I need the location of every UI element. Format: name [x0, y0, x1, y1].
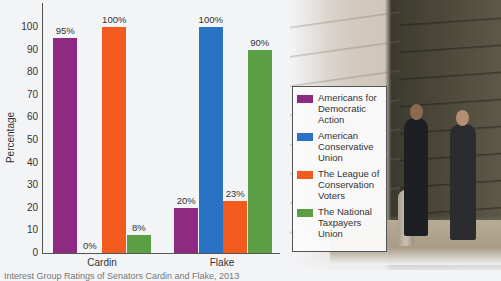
legend-swatch [297, 171, 313, 179]
bar-value-label: 95% [48, 25, 82, 36]
y-tick-label: 70 [16, 90, 38, 100]
legend-swatch [297, 95, 313, 103]
category-label-flake: Flake [192, 257, 252, 268]
y-tick-label: 100 [16, 22, 38, 32]
legend: Americans for Democratic Action American… [292, 86, 387, 252]
y-tick-label: 20 [16, 203, 38, 213]
bar-cardin-0 [53, 38, 77, 253]
y-axis-line [42, 3, 43, 254]
y-tick-label: 40 [16, 158, 38, 168]
bar-value-label: 90% [243, 37, 277, 48]
y-tick-label: 10 [16, 225, 38, 235]
y-tick-label: 50 [16, 135, 38, 145]
category-label-cardin: Cardin [72, 257, 132, 268]
legend-item-ntu: The National Taxpayers Union [297, 206, 382, 239]
figure-caption: Interest Group Ratings of Senators Cardi… [4, 271, 239, 281]
legend-label: The League of Conservation Voters [318, 168, 382, 201]
y-tick-label: 90 [16, 45, 38, 55]
photo-person-right-head [456, 110, 469, 126]
photo-person-right [450, 124, 476, 240]
legend-label: American Conservative Union [318, 130, 382, 163]
bar-flake-0 [174, 208, 198, 253]
bar-value-label: 100% [194, 14, 228, 25]
bar-flake-1 [199, 27, 223, 253]
legend-label: The National Taxpayers Union [318, 206, 382, 239]
y-axis-label: Percentage [5, 108, 16, 168]
photo-person-left [404, 118, 428, 236]
legend-swatch [297, 209, 313, 217]
bar-cardin-2 [102, 27, 126, 253]
y-tick-label: 0 [16, 248, 38, 258]
legend-item-lcv: The League of Conservation Voters [297, 168, 382, 201]
x-axis-line [42, 253, 280, 254]
legend-label: Americans for Democratic Action [318, 92, 382, 125]
bar-flake-2 [223, 201, 247, 253]
legend-item-acu: American Conservative Union [297, 130, 382, 163]
bar-flake-3 [248, 50, 272, 253]
y-tick-label: 60 [16, 112, 38, 122]
legend-swatch [297, 133, 313, 141]
bar-value-label: 100% [97, 14, 131, 25]
y-tick-label: 80 [16, 67, 38, 77]
bar-cardin-3 [127, 235, 151, 253]
legend-item-ada: Americans for Democratic Action [297, 92, 382, 125]
photo-person-left-head [410, 104, 423, 120]
bar-value-label: 8% [122, 222, 156, 233]
y-tick-label: 30 [16, 180, 38, 190]
